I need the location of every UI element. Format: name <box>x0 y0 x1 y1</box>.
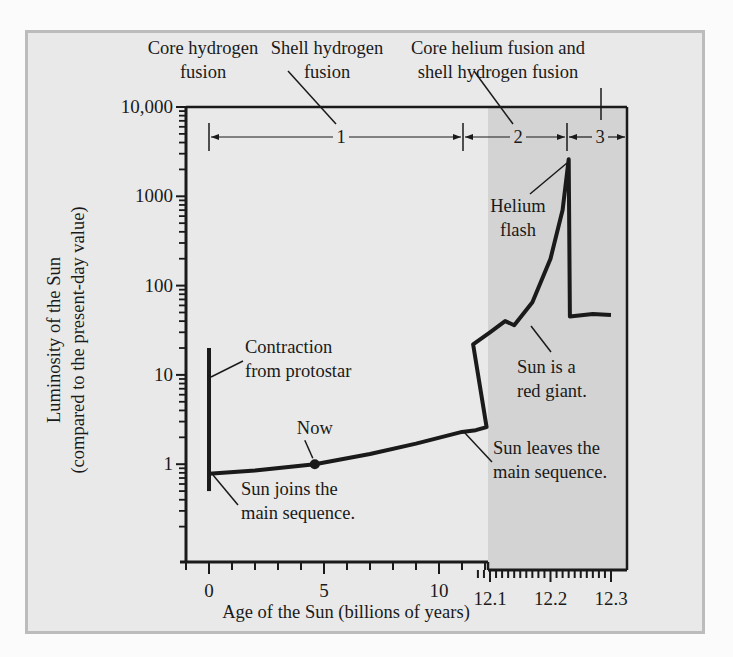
arrowhead-left <box>211 134 219 140</box>
phase-label-1: Core hydrogen <box>148 38 258 58</box>
annotation-red-giant: Sun is a <box>517 357 576 377</box>
x-tick-label: 12.1 <box>473 588 506 609</box>
y-tick-label: 100 <box>145 275 174 296</box>
x-tick-label: 5 <box>319 580 329 601</box>
luminosity-chart: 10,0001000100101051012.112.212.3Age of t… <box>0 0 733 657</box>
annotation-joins-main-sequence: Sun joins the <box>241 479 338 499</box>
y-axis-sublabel: (compared to the present-day value) <box>68 206 89 473</box>
annotation-joins-main-sequence: main sequence. <box>241 503 355 523</box>
y-tick-label: 1000 <box>135 185 173 206</box>
arrowhead-right <box>453 134 461 140</box>
now-label: Now <box>297 418 334 438</box>
y-tick-label: 1 <box>164 453 174 474</box>
arrowhead-left <box>465 134 473 140</box>
phase-number: 3 <box>595 127 604 147</box>
annotation-contraction: from protostar <box>245 361 351 381</box>
annotation-leaves-main-sequence: main sequence. <box>493 462 607 482</box>
now-marker <box>310 459 320 469</box>
annotation-red-giant: red giant. <box>517 381 587 401</box>
x-axis-label: Age of the Sun (billions of years) <box>222 602 470 623</box>
x-tick-label: 12.2 <box>534 588 567 609</box>
phase-label-3: shell hydrogen fusion <box>418 62 578 82</box>
joins-leader <box>213 475 238 505</box>
x-tick-label: 10 <box>430 580 449 601</box>
phase-label-3: Core helium fusion and <box>411 38 586 58</box>
annotation-helium-flash: Helium <box>490 196 546 216</box>
phase-number: 1 <box>336 127 345 147</box>
y-tick-label: 10,000 <box>121 96 173 117</box>
phase-label-1: fusion <box>180 62 226 82</box>
phase-label-2: fusion <box>304 62 350 82</box>
y-tick-label: 10 <box>154 364 173 385</box>
annotation-leaves-main-sequence: Sun leaves the <box>493 438 600 458</box>
contraction-leader <box>211 361 243 377</box>
x-tick-label: 12.3 <box>594 588 627 609</box>
annotation-helium-flash: flash <box>500 220 536 240</box>
leaves-leader <box>464 432 492 462</box>
y-axis-label: Luminosity of the Sun <box>44 257 64 423</box>
annotation-contraction: Contraction <box>245 337 332 357</box>
phase-number: 2 <box>513 127 522 147</box>
now-leader <box>305 440 313 458</box>
phase-label-2: Shell hydrogen <box>271 38 384 58</box>
shaded-region <box>488 107 627 570</box>
x-tick-label: 0 <box>204 580 214 601</box>
